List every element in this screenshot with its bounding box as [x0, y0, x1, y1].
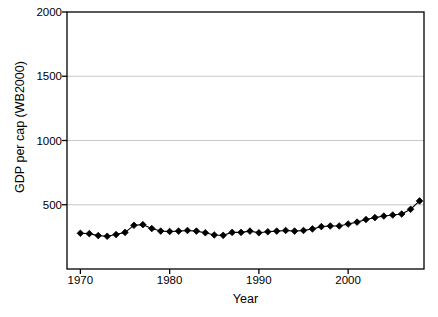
- y-tick-label: 500: [22, 199, 62, 211]
- y-tick-label: 1500: [22, 70, 62, 82]
- gridlines: [67, 76, 424, 205]
- y-tick-label: 2000: [22, 6, 62, 18]
- chart-figure: 200015001000500 1970198019902000 GDP per…: [0, 0, 438, 317]
- y-axis-title: GDP per cap (WB2000): [13, 27, 27, 227]
- x-axis-title: Year: [67, 292, 424, 306]
- x-tick-label: 2000: [323, 274, 373, 286]
- x-tick-label: 1980: [145, 274, 195, 286]
- line-chart-plot: [0, 0, 438, 317]
- x-tick-label: 1990: [234, 274, 284, 286]
- y-axis-tick-labels: 200015001000500: [0, 0, 62, 317]
- x-tick-label: 1970: [55, 274, 105, 286]
- y-tick-label: 1000: [22, 135, 62, 147]
- x-axis-tick-labels: 1970198019902000: [0, 274, 438, 294]
